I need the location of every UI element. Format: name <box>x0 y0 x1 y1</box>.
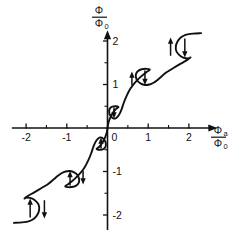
arrowhead-down <box>80 178 85 184</box>
x-axis-label: ΦaΦ0 <box>211 124 229 151</box>
y-axis-arrowhead <box>104 30 111 39</box>
x-tick-label: 2 <box>186 131 192 143</box>
y-tick-label: -1 <box>113 165 122 177</box>
y-axis-label-numerator: Φ <box>95 4 103 16</box>
y-tick-label: -2 <box>113 209 122 221</box>
x-tick-label: 1 <box>145 131 151 143</box>
arrowhead-up <box>129 71 134 77</box>
arrowhead-down <box>42 212 47 218</box>
plot-canvas: -2-101221-1-2ΦΦ0ΦaΦ0 <box>0 0 238 230</box>
x-axis-label-denominator-sub: 0 <box>224 142 228 151</box>
x-tick-label: -1 <box>62 131 71 143</box>
jump-arrow-down-1 <box>42 200 47 218</box>
flux-hysteresis-figure: -2-101221-1-2ΦΦ0ΦaΦ0 <box>0 0 238 230</box>
x-axis-label-denominator: Φ <box>214 137 222 149</box>
y-axis-label: ΦΦ0 <box>92 4 109 31</box>
jump-arrow-up-1 <box>27 198 32 217</box>
jump-arrow-up-5 <box>168 38 173 56</box>
y-axis-label-denominator: Φ <box>95 17 103 29</box>
origin-label: 0 <box>112 131 118 143</box>
x-axis-label-numerator: Φ <box>214 124 222 136</box>
arrowhead-up <box>168 38 173 44</box>
labels-layer: -2-101221-1-2ΦΦ0ΦaΦ0 <box>21 4 228 221</box>
y-tick-label: 1 <box>113 78 119 90</box>
y-axis-label-denominator-sub: 0 <box>105 22 109 31</box>
x-tick-label: -2 <box>21 131 30 143</box>
y-tick-label: 2 <box>113 35 119 47</box>
jump-arrow-down-5 <box>182 38 187 57</box>
